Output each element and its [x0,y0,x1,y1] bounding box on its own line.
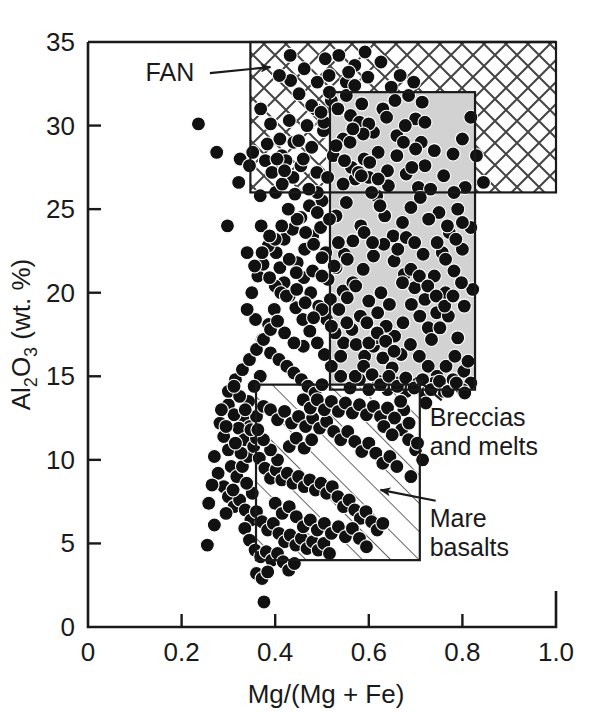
fan-region-label: FAN [146,58,195,86]
data-point [207,518,221,532]
data-point [396,135,410,149]
data-point [214,403,228,417]
y-axis-title: Al2O3 (wt. %) [6,259,41,411]
data-point [405,160,419,174]
data-point [374,286,388,300]
data-point [322,546,336,560]
data-point [305,433,319,447]
data-point [418,115,432,129]
data-point [398,119,412,133]
x-tick-label: 0.4 [257,637,293,667]
data-point [455,132,469,146]
data-point [361,70,375,84]
data-point [270,152,284,166]
data-point [363,155,377,169]
data-point [395,216,409,230]
y-tick-label: 15 [46,361,75,391]
data-point [458,386,472,400]
data-point [440,219,454,233]
data-point [359,540,373,554]
data-point [238,403,252,417]
y-tick-label: 25 [46,194,75,224]
data-point [340,316,354,330]
data-point [292,87,306,101]
y-tick-label: 0 [61,612,75,642]
x-tick-label: 0.6 [351,637,387,667]
data-point [408,236,422,250]
data-point [391,242,405,256]
data-point [254,102,268,116]
data-point [240,302,254,316]
data-point [457,299,471,313]
data-point [425,333,439,347]
data-point [349,338,363,352]
data-point [245,286,259,300]
data-point [263,271,277,285]
data-point [273,132,287,146]
x-tick-label: 0 [81,637,95,667]
data-point [314,105,328,119]
data-point [275,219,289,233]
data-point [382,297,396,311]
y-tick-label: 10 [46,445,75,475]
data-point [387,344,401,358]
data-point [227,379,241,393]
data-point [334,349,348,363]
data-point [263,229,277,243]
data-point [336,177,350,191]
data-point [288,187,302,201]
data-point [292,134,306,148]
data-point [446,289,460,303]
data-point [246,145,260,159]
data-point [362,294,376,308]
data-point [340,291,354,305]
data-point [290,282,304,296]
data-point [416,453,430,467]
data-point [321,170,335,184]
data-point [418,159,432,173]
data-point [232,175,246,189]
data-point [228,436,242,450]
data-point [287,556,301,570]
data-point [305,140,319,154]
data-point [393,68,407,82]
data-point [322,68,336,82]
data-point [253,189,267,203]
data-point [371,306,385,320]
mare-region-label: Marebasalts [430,504,509,561]
data-point [342,65,356,79]
plot-canvas: 0510152025303500.20.40.60.81.0Mg/(Mg + F… [0,0,595,712]
data-point [349,279,363,293]
data-point [315,269,329,283]
data-point [455,216,469,230]
data-point [366,249,380,263]
data-point [346,122,360,136]
data-point [476,175,490,189]
data-point [373,199,387,213]
data-point [296,152,310,166]
data-point [404,470,418,484]
data-point [469,149,483,163]
data-point [402,88,416,102]
data-point [307,237,321,251]
data-point [202,496,216,510]
x-tick-label: 0.8 [444,637,480,667]
data-point [413,309,427,323]
data-point [255,246,269,260]
data-point [433,321,447,335]
data-point [315,251,329,265]
data-point [451,202,465,216]
data-point [257,595,271,609]
data-point [240,246,254,260]
data-point [358,45,372,59]
data-point [205,478,219,492]
data-point [415,95,429,109]
data-point [395,276,409,290]
data-point [331,236,345,250]
data-point [219,419,233,433]
data-point [371,172,385,186]
data-point [339,195,353,209]
x-axis-title: Mg/(Mg + Fe) [248,679,405,709]
data-point [394,394,408,408]
data-point [281,202,295,216]
